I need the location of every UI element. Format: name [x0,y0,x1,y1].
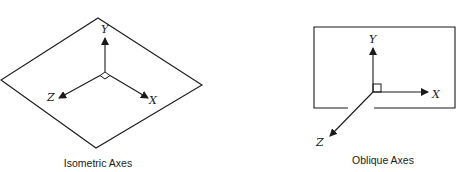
axes-comparison-diagram: Y Z X Isometric Axes Y X Z Oblique Axes [0,0,461,172]
isometric-right-angle-marker [100,72,110,79]
oblique-right-angle-marker [373,84,381,92]
oblique-z-label: Z [315,136,324,149]
oblique-x-label: X [431,88,441,101]
oblique-diagram: Y X Z Oblique Axes [314,27,455,166]
isometric-z-axis [59,76,100,99]
isometric-diagram: Y Z X Isometric Axes [1,18,202,169]
isometric-x-label: X [148,94,158,107]
isometric-caption: Isometric Axes [64,157,132,169]
isometric-x-axis [110,76,148,99]
isometric-plane [1,18,202,148]
oblique-caption: Oblique Axes [352,154,414,166]
oblique-y-label: Y [369,33,378,46]
oblique-z-axis [330,92,373,136]
isometric-z-label: Z [46,91,55,104]
